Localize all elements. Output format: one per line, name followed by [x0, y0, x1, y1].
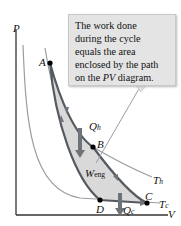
callout-box: The work done during the cycle equals th… [68, 14, 176, 86]
callout-line: on the PV diagram. [75, 71, 169, 84]
point-b [90, 144, 95, 149]
point-b-label: B [97, 138, 104, 150]
th-sub: h [159, 177, 163, 186]
qh-sub: h [97, 123, 101, 132]
callout-line: equals the area [75, 45, 169, 58]
tc-sub: c [165, 201, 168, 210]
point-c-label: C [145, 190, 152, 202]
weng-label: Weng [85, 167, 105, 179]
callout-pv: PV [103, 72, 115, 83]
callout-line: The work done [75, 19, 169, 32]
qc-label: Qc [123, 204, 134, 216]
callout-text: diagram. [115, 72, 153, 83]
weng-sub: eng [94, 170, 105, 179]
point-a-label: A [39, 56, 46, 68]
point-d [97, 197, 102, 202]
weng-text: W [85, 167, 94, 179]
qh-text: Q [89, 120, 97, 132]
th-label: Th [153, 174, 163, 186]
qh-label: Qh [89, 120, 101, 132]
callout-text: on the [75, 72, 103, 83]
point-a [47, 60, 52, 65]
v-axis-label: V [168, 208, 175, 220]
point-d-label: D [96, 203, 104, 215]
qc-sub: c [131, 207, 134, 216]
callout-pointer [96, 87, 140, 163]
callout-line: enclosed by the path [75, 58, 169, 71]
tc-label: Tc [159, 198, 168, 210]
p-axis-label: P [13, 22, 20, 34]
callout-line: during the cycle [75, 32, 169, 45]
qc-text: Q [123, 204, 131, 216]
